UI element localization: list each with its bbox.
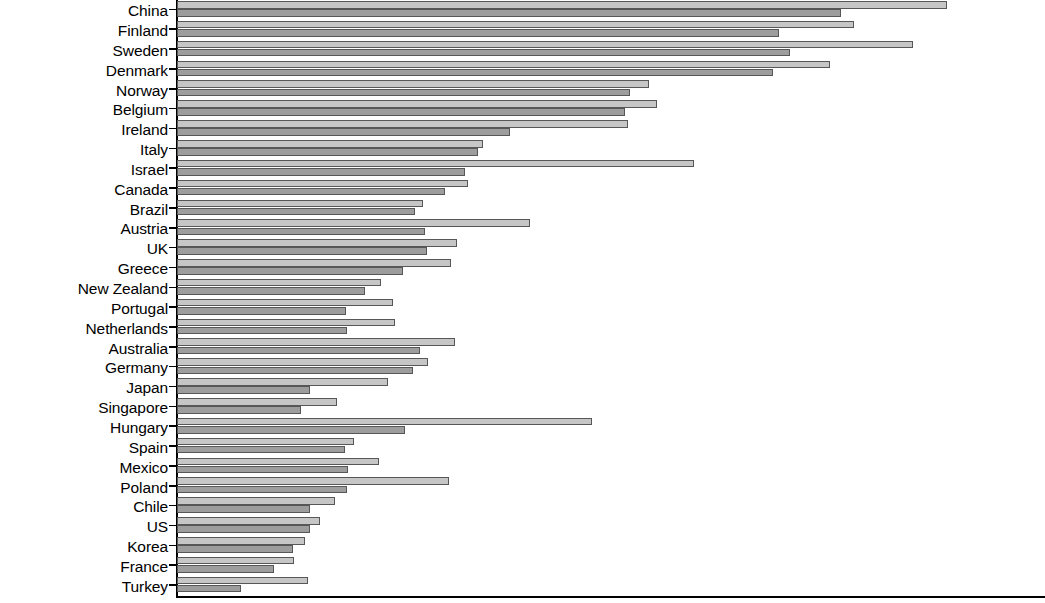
bar-light-norway [177,80,649,88]
axis-tick [169,326,176,328]
bar-dark-new-zealand [177,287,365,295]
bar-dark-netherlands [177,327,347,335]
bar-dark-brazil [177,208,415,216]
category-label-sweden: Sweden [0,43,168,59]
bar-light-china [177,1,947,9]
bar-light-belgium [177,100,657,108]
bar-dark-singapore [177,406,301,414]
axis-tick [169,465,176,467]
axis-tick [169,9,176,11]
axis-tick [169,386,176,388]
plot-area [176,0,1045,603]
bar-dark-hungary [177,426,405,434]
category-label-ireland: Ireland [0,122,168,138]
category-label-portugal: Portugal [0,301,168,317]
category-label-turkey: Turkey [0,579,168,595]
axis-tick [169,485,176,487]
bar-light-us [177,517,320,525]
bar-dark-japan [177,386,310,394]
category-label-uk: UK [0,241,168,257]
axis-tick [169,187,176,189]
bar-light-sweden [177,41,913,49]
axis-tick [169,545,176,547]
axis-tick [169,128,176,130]
bar-light-canada [177,180,468,188]
axis-tick [169,207,176,209]
axis-tick [169,148,176,150]
category-label-australia: Australia [0,341,168,357]
category-label-poland: Poland [0,480,168,496]
category-label-netherlands: Netherlands [0,321,168,337]
bar-light-uk [177,239,457,247]
category-label-singapore: Singapore [0,400,168,416]
bar-light-italy [177,140,483,148]
category-label-chile: Chile [0,499,168,515]
bar-dark-austria [177,228,425,236]
axis-tick [169,584,176,586]
bar-light-greece [177,259,451,267]
category-label-israel: Israel [0,162,168,178]
bar-light-ireland [177,120,628,128]
bar-dark-denmark [177,69,773,77]
category-label-greece: Greece [0,261,168,277]
category-label-austria: Austria [0,221,168,237]
category-label-italy: Italy [0,142,168,158]
bar-light-israel [177,160,694,168]
bar-light-france [177,557,294,565]
axis-tick [169,306,176,308]
value-axis-line [176,596,1045,598]
bar-light-poland [177,477,449,485]
bar-light-brazil [177,200,423,208]
category-label-new-zealand: New Zealand [0,281,168,297]
axis-tick [169,267,176,269]
category-label-belgium: Belgium [0,102,168,118]
category-label-china: China [0,3,168,19]
bar-light-japan [177,378,388,386]
axis-tick [169,445,176,447]
horizontal-bar-chart: ChinaFinlandSwedenDenmarkNorwayBelgiumIr… [0,0,1045,603]
bar-light-spain [177,438,354,446]
category-label-column: ChinaFinlandSwedenDenmarkNorwayBelgiumIr… [0,0,168,603]
bar-light-portugal [177,299,393,307]
category-label-canada: Canada [0,182,168,198]
axis-tick [169,88,176,90]
axis-tick [169,247,176,249]
axis-tick [169,406,176,408]
category-label-germany: Germany [0,360,168,376]
axis-tick [169,564,176,566]
axis-tick [169,28,176,30]
axis-tick [169,68,176,70]
category-label-norway: Norway [0,83,168,99]
bar-light-turkey [177,577,308,585]
axis-tick [169,227,176,229]
bar-dark-finland [177,29,779,37]
bar-light-austria [177,219,530,227]
category-label-denmark: Denmark [0,63,168,79]
bar-dark-belgium [177,108,625,116]
bar-light-netherlands [177,319,395,327]
category-label-japan: Japan [0,380,168,396]
axis-tick [169,505,176,507]
bar-light-korea [177,537,305,545]
axis-tick [169,525,176,527]
bar-dark-italy [177,148,478,156]
bar-light-germany [177,358,428,366]
bar-dark-mexico [177,466,348,474]
bar-dark-turkey [177,585,241,593]
bar-dark-chile [177,505,310,513]
category-label-brazil: Brazil [0,202,168,218]
bar-dark-uk [177,247,427,255]
bar-dark-israel [177,168,465,176]
bar-dark-france [177,565,274,573]
axis-tick [169,108,176,110]
bar-dark-germany [177,367,413,375]
bar-light-finland [177,21,854,29]
axis-tick [169,167,176,169]
category-label-us: US [0,519,168,535]
bar-dark-china [177,9,841,17]
axis-tick [169,48,176,50]
bar-light-chile [177,497,335,505]
bar-light-australia [177,338,455,346]
category-label-korea: Korea [0,539,168,555]
bar-dark-poland [177,486,347,494]
